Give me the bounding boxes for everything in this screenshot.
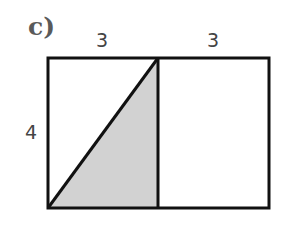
rectangle-figure (0, 0, 283, 225)
diagram-canvas: c) 3 3 4 (0, 0, 283, 225)
